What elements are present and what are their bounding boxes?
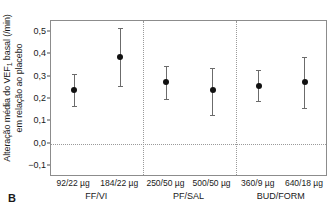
y-tick-label: −0,1 [28,160,46,170]
error-bar-cap-upper [118,28,123,29]
y-axis-title-text: Alteração média do VEF [2,66,12,161]
y-axis-ticks: −0,10,00,10,20,30,40,5 [22,0,50,176]
x-tick-label: 500/50 µg [193,178,231,188]
data-point-marker [163,79,169,85]
y-tick-label: 0,2 [33,93,46,103]
y-tick-label: 0,4 [33,48,46,58]
panel-letter: B [8,192,16,204]
error-bar-cap-lower [118,86,123,87]
zero-reference-line [51,144,326,145]
y-tick-label: 0,5 [33,26,46,36]
error-bar-cap-lower [164,99,169,100]
data-point-marker [71,87,77,93]
x-tick-label: 360/9 µg [241,178,274,188]
x-group-label: FF/VI [85,191,107,201]
y-tick-label: 0,1 [33,115,46,125]
y-tick-label: 0,3 [33,71,46,81]
error-bar-cap-lower [72,106,77,107]
group-separator [236,21,237,175]
x-tick-label: 250/50 µg [146,178,184,188]
data-point-marker [210,87,216,93]
error-bar-cap-upper [164,66,169,67]
y-tick-label: 0,0 [33,138,46,148]
plot-area [50,20,327,176]
data-point-marker [256,83,262,89]
x-tick-label: 184/22 µg [100,178,138,188]
data-point-marker [117,54,123,60]
x-tick-label: 640/18 µg [285,178,323,188]
x-tick-label: 92/22 µg [56,178,89,188]
error-bar-cap-lower [302,108,307,109]
data-point-marker [302,79,308,85]
error-bar-cap-upper [302,57,307,58]
figure-panel-b: Alteração média do VEF1 basal (/min) em … [0,0,334,213]
x-axis-group-labels: FF/VIPF/SALBUD/FORM [50,191,327,205]
y-axis-title-line1: Alteração média do VEF1 basal (/min) [2,14,12,161]
group-separator [143,21,144,175]
error-bar-cap-lower [210,115,215,116]
error-bar-cap-upper [256,70,261,71]
x-axis-dose-labels: 92/22 µg184/22 µg250/50 µg500/50 µg360/9… [50,178,327,191]
y-axis-title-subscript: 1 [6,63,13,67]
error-bar-cap-upper [210,68,215,69]
error-bar-cap-lower [256,101,261,102]
error-bar-cap-upper [72,74,77,75]
x-group-label: BUD/FORM [257,191,305,201]
x-group-label: PF/SAL [173,191,204,201]
y-axis-title-units: basal (/min) [2,14,12,62]
